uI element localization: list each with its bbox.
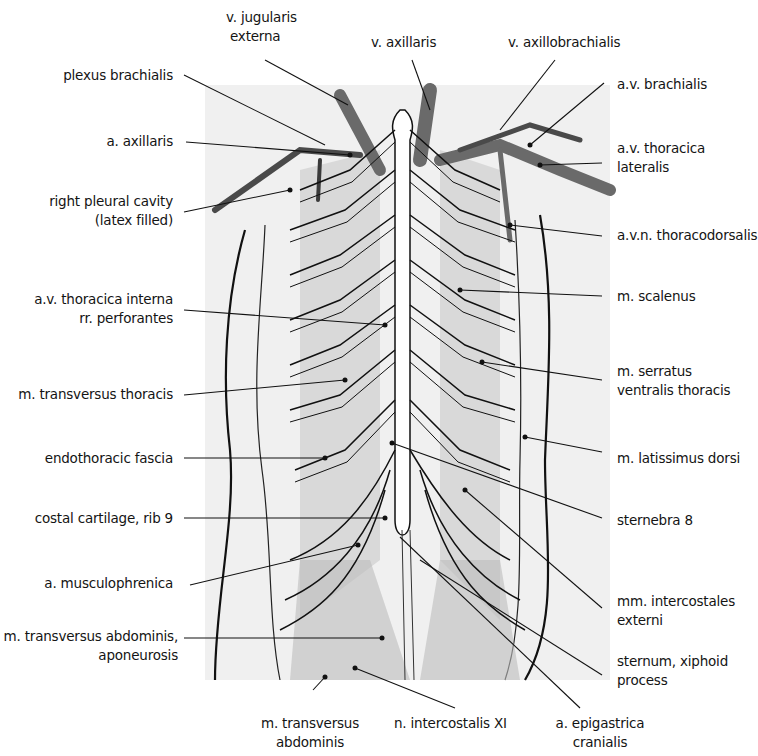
label-m-transversus-thoracis: m. transversus thoracis [18,385,173,404]
label-a-epigastrica-cranialis: a. epigastrica cranialis [540,714,660,752]
label-sternum-xiphoid: sternum, xiphoid process [617,652,728,690]
label-m-scalenus: m. scalenus [617,287,695,306]
label-av-thoracica-interna: a.v. thoracica interna rr. perforantes [34,290,173,328]
label-v-axillobrachialis: v. axillobrachialis [508,33,620,52]
label-m-transversus-abdominis: m. transversus abdominis [240,714,380,752]
label-m-serratus-ventralis: m. serratus ventralis thoracis [617,362,730,400]
sternum [393,110,413,535]
label-v-jugularis-externa: v. jugularis externa [226,8,297,46]
label-n-intercostalis-xi: n. intercostalis XI [394,714,507,733]
label-sternebra-8: sternebra 8 [617,511,693,530]
label-endothoracic-fascia: endothoracic fascia [45,449,173,468]
label-m-latissimus-dorsi: m. latissimus dorsi [617,449,740,468]
label-avn-thoracodorsalis: a.v.n. thoracodorsalis [617,226,757,245]
label-plexus-brachialis: plexus brachialis [63,66,173,85]
label-right-pleural-cavity: right pleural cavity (latex filled) [49,192,173,230]
label-av-brachialis: a.v. brachialis [617,75,707,94]
label-v-axillaris: v. axillaris [371,33,436,52]
label-m-transversus-abdominis-aponeurosis: m. transversus abdominis, aponeurosis [4,627,178,665]
label-costal-cartilage-rib-9: costal cartilage, rib 9 [35,509,173,528]
label-a-axillaris: a. axillaris [106,132,173,151]
label-av-thoracica-lateralis: a.v. thoracica lateralis [617,139,705,177]
label-mm-intercostales-externi: mm. intercostales externi [617,592,735,630]
label-a-musculophrenica: a. musculophrenica [44,574,173,593]
